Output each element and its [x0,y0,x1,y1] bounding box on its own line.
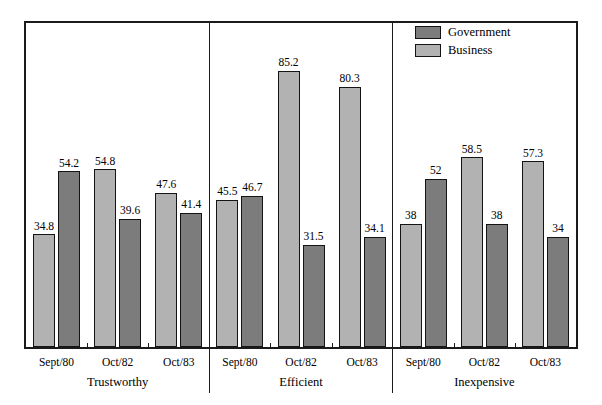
bar-value-label: 38 [405,210,417,222]
panel-label: Inexpensive [454,376,514,389]
legend-item[interactable]: Government [415,26,510,39]
bar-business[interactable]: 38 [400,224,422,347]
axis-tick [454,343,455,349]
bar-value-label: 38 [491,210,503,222]
legend-item[interactable]: Business [415,44,510,57]
bar-value-label: 57.3 [523,148,543,160]
x-tick-label: Oct/82 [469,357,500,369]
bar-government[interactable]: 54.2 [58,171,80,347]
legend-swatch-icon [415,26,441,39]
x-tick-label: Sept/80 [222,357,257,369]
bar-government[interactable]: 52 [425,179,447,347]
axis-tick [270,343,271,349]
bar-business[interactable]: 85.2 [278,71,300,347]
panel-label: Efficient [279,376,323,389]
bar-business[interactable]: 34.8 [33,234,55,347]
x-tick-label: Oct/83 [530,357,561,369]
axis-tick [148,343,149,349]
bar-business[interactable]: 45.5 [216,200,238,347]
bar-value-label: 54.2 [59,158,79,170]
bar-value-label: 34 [552,223,564,235]
bar-government[interactable]: 38 [486,224,508,347]
x-tick-label: Sept/80 [39,357,74,369]
legend-label: Government [448,26,510,39]
axis-tick [332,343,333,349]
x-tick-label: Oct/82 [102,357,133,369]
x-tick-label: Oct/83 [163,357,194,369]
bar-government[interactable]: 46.7 [241,196,263,347]
legend-label: Business [448,44,492,57]
bar-value-label: 47.6 [156,179,176,191]
bar-value-label: 39.6 [120,205,140,217]
x-tick-label: Oct/83 [346,357,377,369]
legend-swatch-icon [415,44,441,57]
x-tick-label: Oct/82 [285,357,316,369]
bar-government[interactable]: 34.1 [364,237,386,347]
bar-value-label: 54.8 [95,156,115,168]
bar-government[interactable]: 39.6 [119,219,141,347]
x-tick-label: Sept/80 [406,357,441,369]
panel-divider [392,21,393,393]
axis-tick [87,343,88,349]
chart-frame: 34.854.254.839.647.641.445.546.785.231.5… [24,21,578,349]
panel-divider [209,21,210,393]
bar-business[interactable]: 57.3 [522,161,544,347]
panel-label: Trustworthy [87,376,148,389]
bar-business[interactable]: 47.6 [155,193,177,347]
bar-value-label: 45.5 [217,186,237,198]
bar-business[interactable]: 80.3 [339,87,361,347]
bar-value-label: 31.5 [303,231,323,243]
bar-government[interactable]: 41.4 [180,213,202,347]
bar-value-label: 52 [430,165,442,177]
plot-area: 34.854.254.839.647.641.445.546.785.231.5… [26,23,576,347]
bar-value-label: 85.2 [278,57,298,69]
axis-tick [515,343,516,349]
bar-business[interactable]: 54.8 [94,169,116,347]
bar-value-label: 80.3 [340,73,360,85]
chart-legend: GovernmentBusiness [415,26,510,57]
bar-government[interactable]: 34 [547,237,569,347]
bar-value-label: 46.7 [242,182,262,194]
bar-value-label: 58.5 [462,144,482,156]
bar-value-label: 34.1 [365,223,385,235]
bar-value-label: 34.8 [34,221,54,233]
chart-page: { "chart_data": { "type": "bar", "title"… [0,0,602,405]
bar-business[interactable]: 58.5 [461,157,483,347]
bar-government[interactable]: 31.5 [303,245,325,347]
bar-value-label: 41.4 [181,199,201,211]
